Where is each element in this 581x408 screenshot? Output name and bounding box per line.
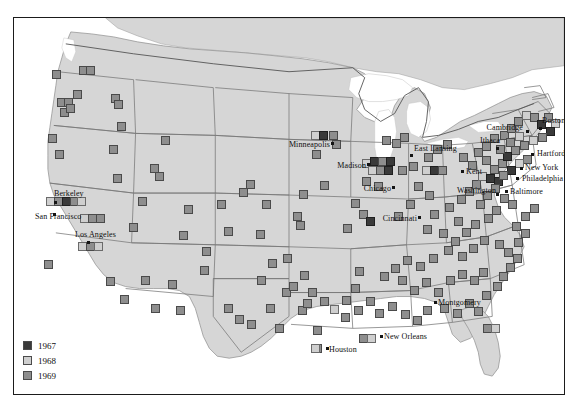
city-label-hartford: Hartford <box>537 149 565 158</box>
map-marker-1969 <box>313 326 322 335</box>
map-marker-1968 <box>77 197 86 206</box>
map-marker-1969 <box>520 141 529 150</box>
map-marker-1969 <box>388 302 397 311</box>
city-dot-new-york <box>520 167 523 170</box>
map-marker-1969 <box>476 200 485 209</box>
map-marker-1968 <box>94 242 103 251</box>
map-marker-1969 <box>52 70 61 79</box>
city-label-los-angeles: Los Angeles <box>75 230 116 239</box>
city-dot-montgomery <box>434 301 437 304</box>
map-marker-1969 <box>484 214 493 223</box>
map-marker-1969 <box>499 272 508 281</box>
map-marker-1969 <box>482 291 491 300</box>
map-marker-1969 <box>200 266 209 275</box>
map-marker-1969 <box>141 276 150 285</box>
city-label-montgomery: Montgomery <box>438 298 481 307</box>
map-marker-1969 <box>268 259 277 268</box>
map-marker-1969 <box>513 254 522 263</box>
map-marker-1969 <box>445 203 454 212</box>
map-marker-1969 <box>235 315 244 324</box>
map-marker-1968 <box>529 136 538 145</box>
map-marker-1969 <box>375 309 384 318</box>
map-marker-1969 <box>150 164 159 173</box>
city-label-san-francisco: San Francisco <box>35 212 81 221</box>
map-marker-1967 <box>386 157 395 166</box>
map-marker-1969 <box>312 150 321 159</box>
map-marker-1969 <box>474 307 483 316</box>
city-label-washington: Washington <box>457 186 496 195</box>
city-label-minneapolis: Minneapolis <box>289 140 330 149</box>
map-marker-1969 <box>239 188 248 197</box>
map-marker-1969 <box>504 248 513 257</box>
map-marker-1969 <box>44 260 53 269</box>
city-dot-cincinnati <box>418 216 421 219</box>
map-marker-1969 <box>398 166 407 175</box>
city-label-houston: Houston <box>329 345 357 354</box>
map-marker-1969 <box>224 304 233 313</box>
legend-label-year-1968: 1968 <box>38 356 56 366</box>
map-marker-1969 <box>413 316 422 325</box>
map-marker-1969 <box>506 138 515 147</box>
city-label-new-orleans: New Orleans <box>384 332 427 341</box>
city-label-cambridge: Cambridge <box>487 123 523 132</box>
city-dot-cambridge <box>526 130 529 133</box>
city-dot-ithaca <box>496 147 499 150</box>
legend-row-year-1968: 1968 <box>23 353 103 368</box>
map-marker-1969 <box>129 223 138 232</box>
city-label-ithaca: Ithaca <box>480 136 500 145</box>
map-marker-1969 <box>293 212 302 221</box>
map-marker-1969 <box>202 247 211 256</box>
map-marker-1969 <box>403 256 412 265</box>
map-marker-1969 <box>86 66 95 75</box>
map-marker-1969 <box>161 136 170 145</box>
map-marker-1969 <box>117 122 126 131</box>
map-marker-1969 <box>303 299 312 308</box>
map-marker-1969 <box>451 237 460 246</box>
map-marker-1969 <box>66 104 75 113</box>
city-dot-east-lansing <box>410 154 413 157</box>
map-marker-1969 <box>459 153 468 162</box>
map-marker-1969 <box>495 240 504 249</box>
map-marker-1969 <box>247 320 256 329</box>
map-marker-1969 <box>355 267 364 276</box>
map-marker-1969 <box>499 171 508 180</box>
city-dot-berkeley <box>54 201 57 204</box>
map-marker-1969 <box>423 225 432 234</box>
map-marker-1969 <box>469 244 478 253</box>
map-marker-1969 <box>106 277 115 286</box>
map-marker-1969 <box>457 195 466 204</box>
map-marker-1969 <box>454 217 463 226</box>
map-marker-1967 <box>507 166 516 175</box>
map-marker-1969 <box>300 271 309 280</box>
city-label-kent: Kent <box>466 167 482 176</box>
city-dot-boston <box>539 127 542 130</box>
map-marker-1969 <box>479 268 488 277</box>
map-marker-1969 <box>439 229 448 238</box>
map-marker-1969 <box>224 227 233 236</box>
map-frame: MinneapolisMadisonChicagoCincinnatiEast … <box>13 17 565 395</box>
map-marker-1968 <box>367 334 376 343</box>
city-label-new-york: New York <box>525 163 558 172</box>
distribution-map-figure: MinneapolisMadisonChicagoCincinnatiEast … <box>0 0 581 408</box>
map-marker-1969 <box>511 146 520 155</box>
city-label-baltimore: Baltimore <box>510 187 543 196</box>
map-marker-1969 <box>151 304 160 313</box>
city-label-chicago: Chicago <box>364 184 391 193</box>
map-marker-1969 <box>256 230 265 239</box>
map-marker-1969 <box>444 246 453 255</box>
map-marker-1969 <box>184 205 193 214</box>
map-marker-1969 <box>329 131 338 140</box>
map-marker-1969 <box>416 262 425 271</box>
map-marker-1969 <box>114 100 123 109</box>
map-marker-1969 <box>521 229 530 238</box>
map-marker-1969 <box>354 306 363 315</box>
map-marker-1969 <box>73 90 82 99</box>
map-marker-1969 <box>320 297 329 306</box>
map-marker-1969 <box>400 133 409 142</box>
city-label-boston: Boston <box>542 116 565 125</box>
map-marker-1967 <box>384 166 393 175</box>
map-marker-1969 <box>55 150 64 159</box>
map-marker-1969 <box>138 197 147 206</box>
map-marker-1969 <box>257 276 266 285</box>
map-marker-1969 <box>351 284 360 293</box>
